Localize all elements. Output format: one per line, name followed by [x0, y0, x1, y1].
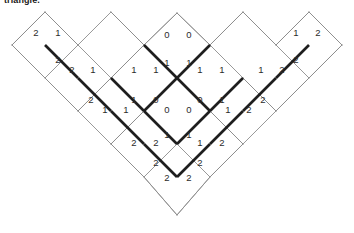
tiling-digit-label: 2: [153, 157, 158, 168]
tiling-digit-label: 1: [55, 27, 60, 38]
tiling-edge-thin: [243, 111, 276, 144]
tiling-digit-label: 2: [153, 137, 158, 148]
tiling-digit-label: 1: [186, 129, 191, 140]
tiling-digit-label: 1: [131, 64, 136, 75]
figure-root: triangle. 212212110011111110010011221222…: [0, 0, 354, 233]
tiling-digit-label: 1: [219, 64, 224, 75]
tiling-digit-label: 2: [219, 137, 224, 148]
tiling-digit-label: 1: [123, 104, 128, 115]
tiling-digit-label: 2: [186, 172, 191, 183]
tiling-digit-label: 1: [225, 104, 230, 115]
tiling-digit-label: 1: [258, 64, 263, 75]
tiling-digit-label: 2: [260, 94, 265, 105]
tiling-digit-label: 2: [164, 172, 169, 183]
tiling-digit-label: 2: [293, 54, 298, 65]
tiling-digit-label: 1: [197, 137, 202, 148]
tiling-digit-label: 0: [164, 29, 169, 40]
tiling-digit-label: 1: [293, 27, 298, 38]
tiling-digit-label: 1: [186, 57, 191, 68]
tiling-digit-label: 1: [197, 64, 202, 75]
tiling-digit-label: 1: [90, 64, 95, 75]
tiling-digit-label: 0: [153, 94, 158, 105]
tiling-faces: [12, 12, 342, 215]
tiling-digit-label: 1: [164, 57, 169, 68]
tiling-digit-label: 2: [55, 54, 60, 65]
tiling-digit-label: 2: [279, 64, 284, 75]
tiling-digit-label: 2: [131, 137, 136, 148]
tiling-digit-label: 2: [315, 27, 320, 38]
tiling-digit-label: 1: [131, 94, 136, 105]
rhombus-tiling-svg: 2122121100111111100100112212222212221221: [0, 0, 354, 233]
tiling-edge-thin: [78, 111, 111, 144]
tiling-digit-label: 2: [69, 64, 74, 75]
tiling-digit-label: 2: [246, 104, 251, 115]
tiling-digit-label: 1: [164, 129, 169, 140]
tiling-digit-label: 0: [197, 94, 202, 105]
tiling-digit-label: 1: [102, 104, 107, 115]
tiling-digit-label: 1: [153, 64, 158, 75]
tiling-digit-label: 0: [186, 104, 191, 115]
tiling-digit-label: 0: [186, 29, 191, 40]
tiling-digit-label: 2: [197, 157, 202, 168]
tiling-outline-fill: [12, 12, 342, 215]
tiling-digit-label: 2: [33, 27, 38, 38]
tiling-digit-label: 2: [88, 94, 93, 105]
tiling-digit-label: 0: [164, 104, 169, 115]
tiling-digit-label: 1: [219, 94, 224, 105]
